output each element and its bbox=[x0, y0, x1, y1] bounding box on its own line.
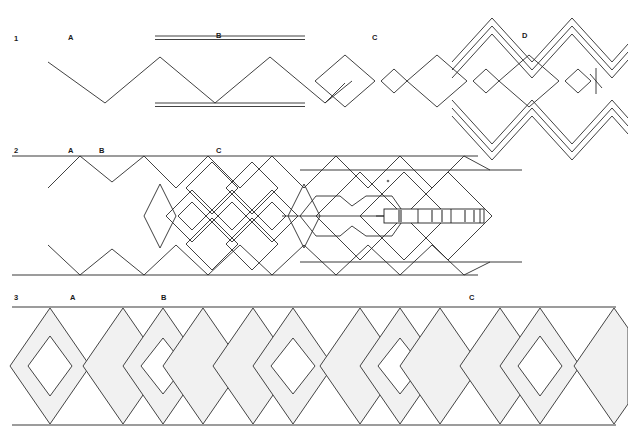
row-1-label-d: D bbox=[522, 31, 528, 40]
row-3-label-a: A bbox=[70, 293, 76, 302]
row-2-label-b: B bbox=[99, 146, 105, 155]
row-2-number: 2 bbox=[14, 146, 18, 155]
row-1-label-c: C bbox=[372, 33, 378, 42]
row-3-label-b: B bbox=[161, 293, 167, 302]
row-2-scale-bar[interactable] bbox=[376, 209, 484, 223]
lattice-figure: 1 A B C D bbox=[0, 0, 628, 434]
row-2-label-c: C bbox=[216, 146, 222, 155]
diagram-canvas: 1 A B C D bbox=[0, 0, 628, 434]
row-3-label-c: C bbox=[469, 293, 475, 302]
row-3-number: 3 bbox=[14, 293, 18, 302]
row-1-label-a: A bbox=[68, 33, 74, 42]
row-1-number: 1 bbox=[14, 34, 18, 43]
row-2-label-a: A bbox=[68, 146, 74, 155]
row-2-marker-dot bbox=[387, 180, 390, 183]
row-1-label-b: B bbox=[216, 31, 222, 40]
